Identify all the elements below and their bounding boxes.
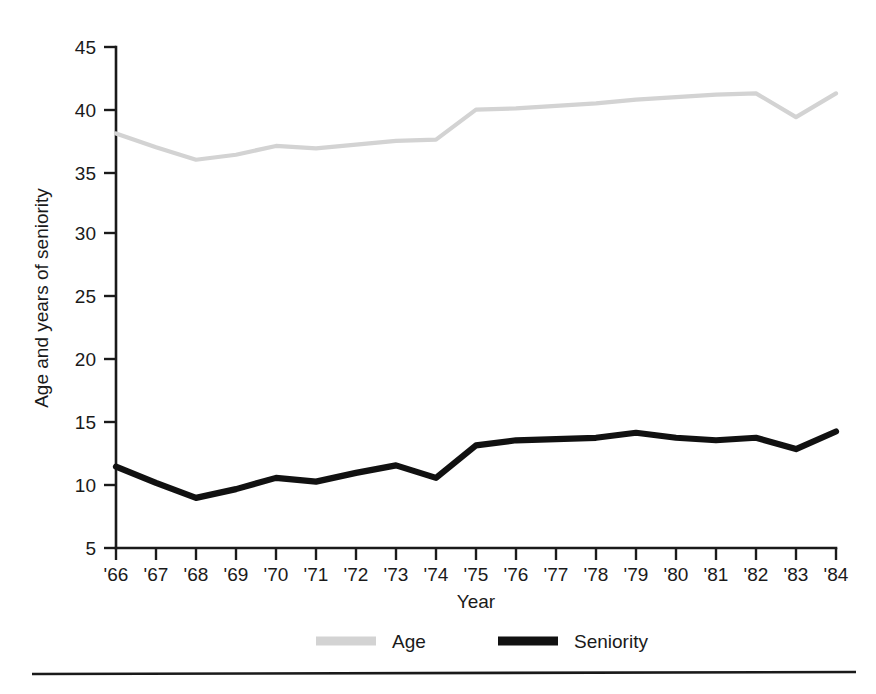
y-axis-ticks: 45 40 35 30 25 20 15 10 5 (75, 37, 116, 559)
x-tick-label-66: '66 (104, 564, 129, 585)
y-tick-label-10: 10 (75, 475, 96, 496)
x-tick-label-80: '80 (664, 564, 689, 585)
chart-figure: 45 40 35 30 25 20 15 10 5 '66'67'68'69'7… (0, 0, 876, 694)
y-tick-label-40: 40 (75, 100, 96, 121)
x-tick-label-70: '70 (264, 564, 289, 585)
line-chart: 45 40 35 30 25 20 15 10 5 '66'67'68'69'7… (0, 0, 876, 694)
x-tick-label-75: '75 (464, 564, 489, 585)
x-tick-label-71: '71 (304, 564, 329, 585)
series-line-seniority (116, 432, 836, 498)
legend-label-age: Age (392, 631, 426, 652)
y-axis-title: Age and years of seniority (31, 188, 52, 408)
x-axis-ticks: '66'67'68'69'70'71'72'73'74'75'76'77'78'… (104, 548, 849, 585)
x-tick-label-74: '74 (424, 564, 449, 585)
x-tick-label-73: '73 (384, 564, 409, 585)
y-tick-label-5: 5 (85, 538, 96, 559)
chart-legend: Age Seniority (316, 631, 648, 652)
y-tick-label-25: 25 (75, 286, 96, 307)
x-tick-label-81: '81 (704, 564, 729, 585)
y-tick-label-30: 30 (75, 223, 96, 244)
legend-label-seniority: Seniority (574, 631, 648, 652)
x-tick-label-67: '67 (144, 564, 169, 585)
x-tick-label-83: '83 (784, 564, 809, 585)
x-tick-label-69: '69 (224, 564, 249, 585)
x-tick-label-68: '68 (184, 564, 209, 585)
x-tick-label-82: '82 (744, 564, 769, 585)
x-tick-label-77: '77 (544, 564, 569, 585)
x-tick-label-84: '84 (824, 564, 849, 585)
footer-divider (32, 672, 856, 674)
x-tick-label-78: '78 (584, 564, 609, 585)
x-tick-label-72: '72 (344, 564, 369, 585)
y-tick-label-45: 45 (75, 37, 96, 58)
y-tick-label-20: 20 (75, 349, 96, 370)
x-tick-label-76: '76 (504, 564, 529, 585)
series-line-age (116, 93, 836, 159)
y-tick-label-15: 15 (75, 412, 96, 433)
x-axis-title: Year (457, 591, 496, 612)
x-tick-label-79: '79 (624, 564, 649, 585)
y-tick-label-35: 35 (75, 163, 96, 184)
